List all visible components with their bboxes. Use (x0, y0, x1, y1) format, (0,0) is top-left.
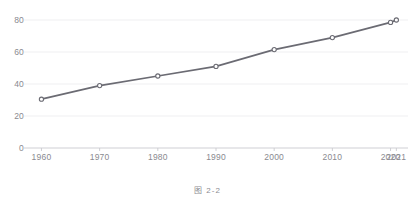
x-axis-tick-label: 2000 (264, 152, 284, 162)
chart-plot-svg (0, 0, 415, 160)
series-line-path (41, 20, 396, 99)
y-axis-labels: 020406080 (0, 0, 24, 160)
series-markers-group (39, 18, 398, 101)
x-axis-tick-label: 1990 (206, 152, 226, 162)
y-axis-tick-label: 60 (2, 48, 24, 57)
data-point-marker (388, 20, 392, 24)
x-axis-tick-label: 1970 (90, 152, 110, 162)
y-axis-tick-label: 80 (2, 16, 24, 25)
data-point-marker (98, 84, 102, 88)
x-axis-tick-label: 1960 (32, 152, 52, 162)
x-axis-tick-label: 1980 (148, 152, 168, 162)
x-axis-tick-label: 2010 (323, 152, 343, 162)
line-chart: 020406080 (0, 0, 415, 160)
data-point-marker (394, 18, 398, 22)
figure-container: 020406080 196019701980199020002010202020… (0, 0, 415, 198)
gridlines-group (24, 20, 408, 148)
y-axis-tick-label: 20 (2, 112, 24, 121)
data-point-marker (39, 97, 43, 101)
data-point-marker (156, 74, 160, 78)
x-axis-labels: 19601970198019902000201020202021 (0, 152, 415, 168)
x-axis-tick-label: 2021 (387, 152, 407, 162)
figure-caption: 图 2-2 (0, 186, 415, 196)
data-point-marker (272, 48, 276, 52)
data-point-marker (214, 64, 218, 68)
y-axis-tick-label: 40 (2, 80, 24, 89)
data-point-marker (330, 36, 334, 40)
